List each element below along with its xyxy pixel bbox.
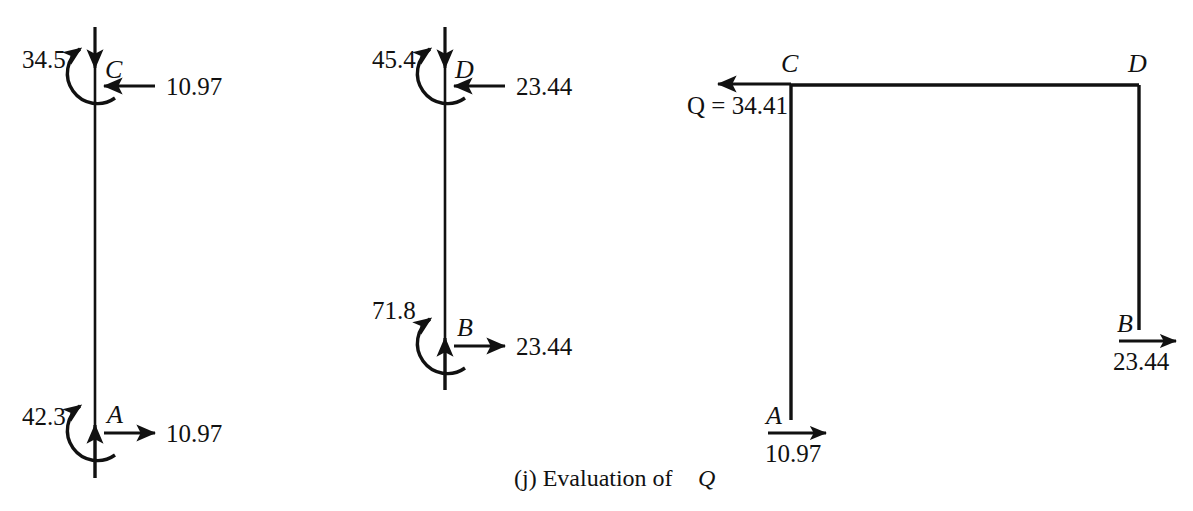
label-shear-C: 10.97 <box>166 73 222 100</box>
label-frame-joint-D: D <box>1127 49 1147 78</box>
free-body-left: 34.5 C 10.97 42.3 A 10.97 <box>22 27 222 478</box>
label-shear-A: 10.97 <box>166 420 222 447</box>
label-frame-joint-C: C <box>781 49 799 78</box>
label-joint-A: A <box>105 400 123 429</box>
caption-prefix: (j) Evaluation of <box>514 465 673 491</box>
label-frame-joint-B: B <box>1117 309 1133 338</box>
label-joint-B: B <box>457 313 473 342</box>
label-joint-C: C <box>105 55 123 84</box>
label-axial-C: 34.5 <box>22 46 66 73</box>
label-joint-D: D <box>454 55 474 84</box>
label-shear-D: 23.44 <box>516 73 573 100</box>
label-base-shear-A: 10.97 <box>765 440 821 467</box>
label-load-Q: Q = 34.41 <box>687 92 788 119</box>
label-frame-joint-A: A <box>764 401 782 430</box>
figure-canvas: 34.5 C 10.97 42.3 A 10.97 45.4 D 23.44 7… <box>0 0 1193 511</box>
label-axial-B: 71.8 <box>372 297 416 324</box>
figure-caption: (j) Evaluation of Q <box>514 465 715 491</box>
label-axial-A: 42.3 <box>22 403 66 430</box>
free-body-middle: 45.4 D 23.44 71.8 B 23.44 <box>372 27 573 390</box>
caption-symbol: Q <box>698 465 715 491</box>
label-base-shear-B: 23.44 <box>1113 348 1170 375</box>
frame-right: C D Q = 34.41 A 10.97 B 23.44 <box>687 49 1176 467</box>
structural-free-body-diagram: 34.5 C 10.97 42.3 A 10.97 45.4 D 23.44 7… <box>0 0 1193 511</box>
label-axial-D: 45.4 <box>372 46 416 73</box>
label-shear-B: 23.44 <box>516 333 573 360</box>
